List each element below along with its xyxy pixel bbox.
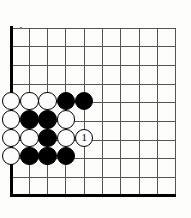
black-stone [38,129,57,148]
white-stone [20,92,39,111]
black-stone [38,147,57,166]
stone-move-1: 1 [75,129,94,148]
black-stone [20,147,39,166]
black-stone [20,110,39,129]
go-board-diagram: 1 [0,0,191,218]
black-stone [38,110,57,129]
white-stone [20,129,39,148]
move-number-label: 1 [76,130,93,147]
star-point-marker [20,27,22,29]
white-stone [57,110,76,129]
white-stone [2,110,21,129]
white-stone [57,129,76,148]
